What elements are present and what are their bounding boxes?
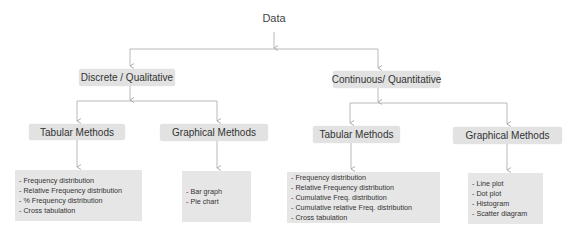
list-item: - Scatter diagram <box>472 209 543 219</box>
list-continuous-tabular: - Frequency distribution - Relative Freq… <box>287 172 440 223</box>
list-item: - Relative Frequency distribution <box>19 186 142 196</box>
list-item: - Frequency distribution <box>19 176 142 186</box>
node-continuous-graphical-methods: Graphical Methods <box>453 127 562 144</box>
list-item: - Cross tabulation <box>291 213 440 223</box>
list-continuous-graphical: - Line plot - Dot plot - Histogram - Sca… <box>468 173 543 224</box>
list-item: - Histogram <box>472 199 543 209</box>
list-item: - Relative Frequency distribution <box>291 183 440 193</box>
list-item: - Dot plot <box>472 189 543 199</box>
node-discrete-qualitative: Discrete / Qualitative <box>79 69 175 86</box>
node-continuous-tabular-methods: Tabular Methods <box>313 126 400 143</box>
list-item: - Line plot <box>472 179 543 189</box>
list-item: - Cumulative Freq. distribution <box>291 193 440 203</box>
list-discrete-tabular: - Frequency distribution - Relative Freq… <box>15 170 142 221</box>
list-item: - Frequency distribution <box>291 173 440 183</box>
list-item: - % Frequency distribution <box>19 196 142 206</box>
list-item: - Bar graph <box>186 187 251 197</box>
list-discrete-graphical: - Bar graph - Pie chart <box>182 171 251 222</box>
list-item: - Pie chart <box>186 197 251 207</box>
list-item: - Cumulative relative Freq. distribution <box>291 203 440 213</box>
node-discrete-graphical-methods: Graphical Methods <box>160 124 268 141</box>
node-discrete-tabular-methods: Tabular Methods <box>29 124 125 140</box>
node-continuous-quantitative: Continuous/ Quantitative <box>333 71 440 88</box>
list-item: - Cross tabulation <box>19 206 142 216</box>
root-node-data: Data <box>254 12 294 24</box>
